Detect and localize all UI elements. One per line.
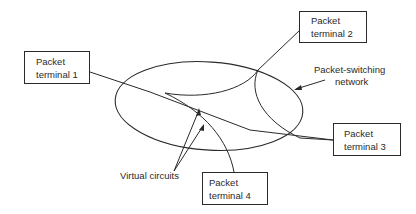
- arrowhead-icon: [196, 108, 201, 116]
- terminal-1-label-line1: Packet: [36, 56, 65, 68]
- terminal-4-label-line2: terminal 4: [209, 190, 251, 202]
- virtual-circuit-arrow-2: [174, 126, 203, 171]
- network-label-line2: network: [335, 76, 368, 88]
- virtual-circuits-label: Virtual circuits: [120, 170, 179, 182]
- terminal-2-box: Packet terminal 2: [299, 11, 367, 43]
- virtual-circuit-arrow-1: [174, 110, 199, 171]
- network-label-line1: Packet-switching: [314, 64, 385, 76]
- terminal-2-label-line1: Packet: [311, 15, 340, 27]
- terminal-4-label-line1: Packet: [209, 177, 238, 189]
- circuit-1-to-4: [165, 93, 234, 172]
- terminal-3-label-line2: terminal 3: [344, 141, 386, 153]
- terminal-1-label-line2: terminal 1: [36, 69, 78, 81]
- terminal-1-box: Packet terminal 1: [24, 51, 90, 84]
- terminal-2-label-line2: terminal 2: [311, 28, 353, 40]
- arrowhead-icon: [294, 85, 302, 90]
- terminal-4-box: Packet terminal 4: [202, 172, 268, 205]
- arrowhead-icon: [199, 124, 204, 131]
- circuit-1-to-3: [90, 72, 333, 140]
- terminal-3-label-line1: Packet: [344, 128, 373, 140]
- circuit-1-to-2: [165, 30, 300, 95]
- network-ellipse: [112, 56, 306, 157]
- terminal-3-box: Packet terminal 3: [333, 123, 401, 156]
